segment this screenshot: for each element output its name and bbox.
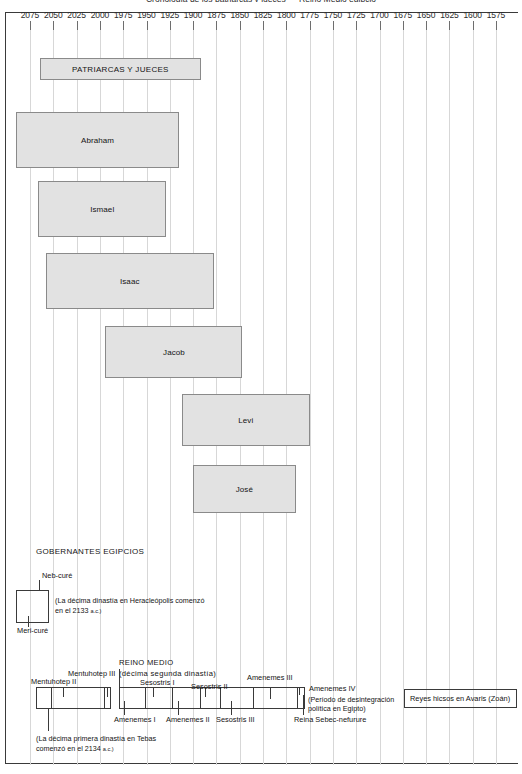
timeline-bar: PATRIARCAS Y JUECES	[40, 58, 200, 80]
gridline	[356, 30, 357, 765]
amenemes-iv-leader	[299, 687, 300, 695]
axis-tick	[496, 21, 497, 30]
reina-sebec-leader	[303, 695, 304, 715]
axis-tick	[53, 21, 54, 30]
axis-tick-label: 1850	[230, 10, 249, 20]
amenemes-ii-label: Amenemes II	[166, 715, 210, 724]
axis-tick-label: 1600	[463, 10, 482, 20]
gridline	[426, 30, 427, 765]
tebas-note: (La décima primera dinastía en Tebascome…	[36, 734, 156, 754]
timeline-bar: Isaac	[46, 253, 214, 309]
axis-tick	[263, 21, 264, 30]
gridline	[449, 30, 450, 765]
timeline-bar-label: Levi	[238, 416, 253, 425]
gridline	[496, 30, 497, 765]
axis-tick-label: 1975	[114, 10, 133, 20]
amenemes-iii-label: Amenemes III	[247, 673, 293, 682]
meri-cure-label: Meri-curé	[17, 626, 48, 635]
timeline-bar-label: Ismael	[90, 205, 114, 214]
axis-tick-label: 1575	[487, 10, 506, 20]
axis-tick-label: 1925	[161, 10, 180, 20]
reino-medio-heading-line2: (décima segunda dinastía)	[119, 669, 216, 678]
axis-tick	[170, 21, 171, 30]
amenemes-i-leader	[124, 701, 125, 715]
axis-tick	[77, 21, 78, 30]
axis-tick-label: 1675	[394, 10, 413, 20]
axis-tick-label: 2075	[21, 10, 40, 20]
axis-tick-label: 1800	[277, 10, 296, 20]
timeline-bar-label: Jacob	[163, 348, 185, 357]
early-ruler-bracket-right	[48, 590, 49, 623]
gridline	[403, 30, 404, 765]
axis-tick	[100, 21, 101, 30]
axis-tick-label: 1900	[184, 10, 203, 20]
axis-tick-label: 2050	[44, 10, 63, 20]
mentuhotep-ii-label: Mentuhotep II	[31, 677, 76, 686]
axis-tick	[216, 21, 217, 30]
early-ruler-bracket-left	[16, 590, 17, 623]
axis-tick-label: 1825	[254, 10, 273, 20]
desintegracion-note-line2: política en Egipto)	[308, 704, 366, 714]
ruler-box-divider	[51, 687, 52, 709]
axis-tick-label: 1750	[324, 10, 343, 20]
neb-cure-leader	[39, 580, 40, 591]
timeline-bar: Abraham	[16, 112, 179, 168]
mentuhotep-ii-leader	[63, 687, 64, 697]
axis-tick	[30, 21, 31, 30]
axis-tick-label: 1625	[440, 10, 459, 20]
sesostris-iii-label: Sesostris III	[216, 715, 255, 724]
axis-tick	[449, 21, 450, 30]
ruler-box-divider	[253, 687, 254, 709]
reino-medio-heading-line1: REINO MEDIO	[119, 658, 173, 667]
reina-sebec-label: Reina Sebec-nefurure	[294, 715, 366, 724]
axis-tick	[356, 21, 357, 30]
axis-tick-label: 1725	[347, 10, 366, 20]
axis-tick	[473, 21, 474, 30]
axis-tick-label: 1875	[207, 10, 226, 20]
tebas-note-leader	[48, 709, 49, 731]
timeline-bar: José	[193, 465, 296, 513]
axis-tick-label: 1650	[417, 10, 436, 20]
sesostris-iii-leader	[231, 701, 232, 715]
axis-tick	[403, 21, 404, 30]
ruler-box-divider	[172, 687, 173, 709]
section-heading-gobernantes: GOBERNANTES EGIPCIOS	[36, 547, 144, 556]
mentuhotep-iii-label: Mentuhotep III	[68, 669, 115, 678]
gridline	[473, 30, 474, 765]
amenemes-ii-leader	[178, 701, 179, 715]
timeline-bar-label: Isaac	[120, 277, 140, 286]
sesostris-ii-label: Sesostris II	[191, 682, 228, 691]
early-ruler-bracket-bottom	[16, 622, 49, 623]
ruler-box-divider	[104, 687, 105, 709]
reino-medio-leader	[119, 669, 120, 687]
timeline-bar: Jacob	[105, 326, 242, 378]
axis-tick	[333, 21, 334, 30]
axis-tick-label: 2025	[67, 10, 86, 20]
hyksos-label: Reyes hicsos en Avaris (Zoán)	[410, 694, 510, 703]
ruler-box-divider	[145, 687, 146, 709]
gridline	[380, 30, 381, 765]
chart-title: Cronología de los patriarcas y jueces — …	[0, 0, 522, 2]
ruler-box-divider	[297, 687, 298, 709]
amenemes-iv-label: Amenemes IV	[309, 684, 355, 693]
axis-tick	[310, 21, 311, 30]
axis-tick	[193, 21, 194, 30]
axis-tick	[123, 21, 124, 30]
mentuhotep-iii-leader	[107, 687, 108, 697]
timeline-bar-label: Abraham	[81, 136, 114, 145]
axis-tick-label: 2000	[91, 10, 110, 20]
gridline	[310, 30, 311, 765]
axis-tick	[286, 21, 287, 30]
amenemes-iii-leader	[270, 687, 271, 699]
amenemes-i-label: Amenemes I	[114, 715, 156, 724]
plot-area: 2075205020252000197519501925190018751850…	[6, 13, 518, 763]
axis-tick	[240, 21, 241, 30]
timeline-chart-frame: 2075205020252000197519501925190018751850…	[5, 12, 518, 764]
timeline-bar-label: PATRIARCAS Y JUECES	[72, 65, 169, 74]
axis-tick-label: 1950	[137, 10, 156, 20]
axis-tick-label: 1700	[370, 10, 389, 20]
heracleopolis-note: (La décima dinastía en Heracleópolis com…	[55, 596, 204, 616]
gridline	[333, 30, 334, 765]
ruler-box-11th-dynasty	[36, 687, 111, 709]
timeline-bar: Levi	[182, 394, 310, 446]
